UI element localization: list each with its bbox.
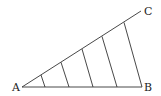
transversal-1 <box>41 75 45 87</box>
transversal-5 <box>124 22 142 87</box>
segment-ac <box>22 11 141 87</box>
label-b: B <box>144 81 152 94</box>
label-c: C <box>144 5 152 18</box>
transversal-3 <box>82 49 93 87</box>
transversal-4 <box>102 36 117 87</box>
transversal-2 <box>61 62 69 87</box>
triangle-diagram: A B C <box>0 0 161 96</box>
label-a: A <box>11 81 21 94</box>
